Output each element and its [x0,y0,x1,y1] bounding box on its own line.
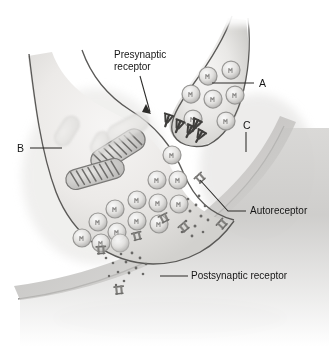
label-b: B [17,142,24,154]
label-a: A [259,77,266,89]
label-autoreceptor: Autoreceptor [250,205,307,217]
fusing-vesicle [111,234,129,252]
label-postsynaptic-receptor: Postsynaptic receptor [191,270,287,282]
label-presynaptic-receptor: Presynaptic receptor [114,49,166,72]
label-c: C [243,119,251,131]
synapse-diagram: Presynaptic receptor Autoreceptor Postsy… [0,0,329,346]
